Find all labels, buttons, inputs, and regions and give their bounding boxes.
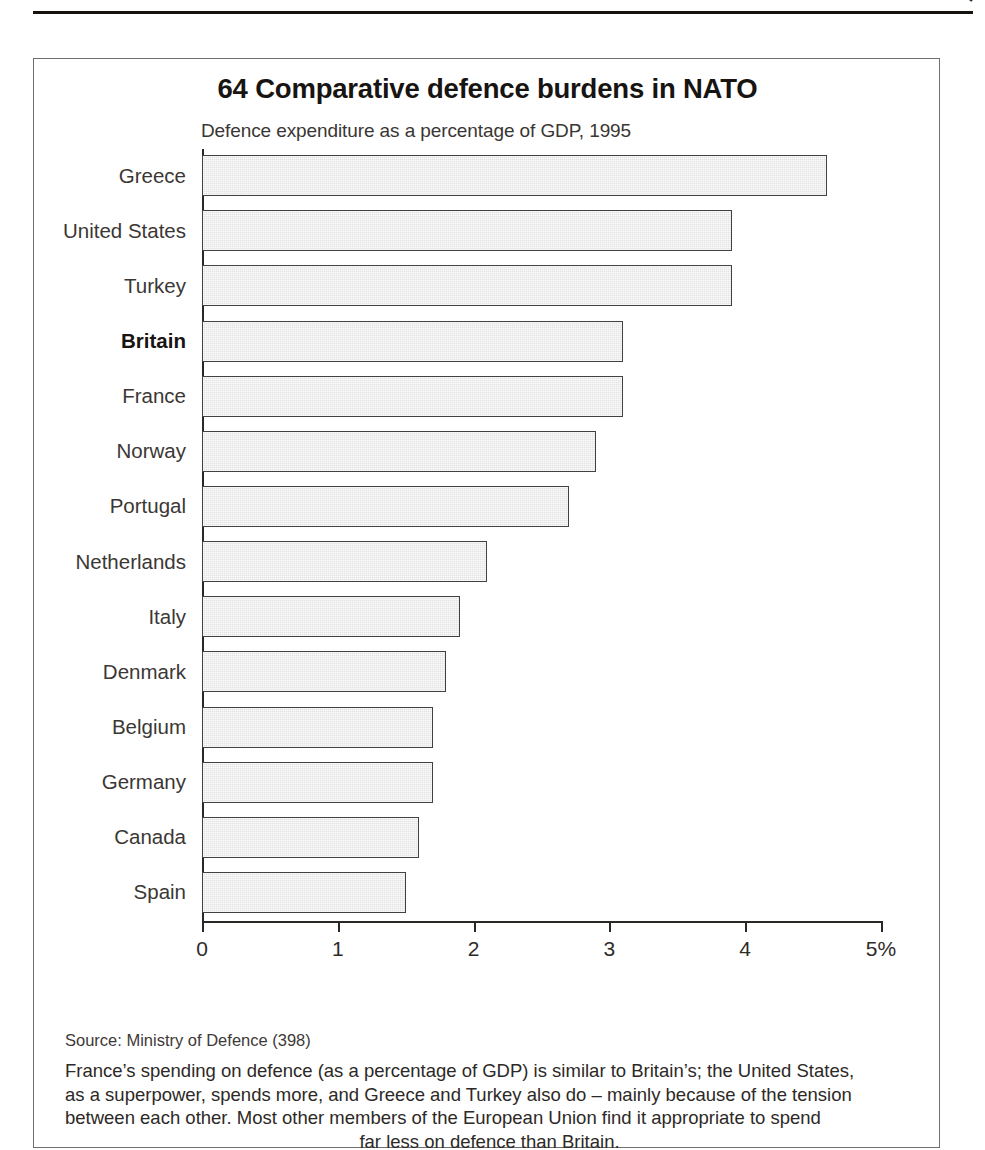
x-axis-tick: [881, 921, 883, 932]
x-axis-tick-label: 5%: [866, 937, 896, 961]
bar-row: Greece: [202, 155, 881, 196]
x-axis-tick: [745, 921, 747, 932]
bar-row: Canada: [202, 817, 881, 858]
bar: [202, 817, 419, 858]
bar-row: Germany: [202, 762, 881, 803]
bar-row: Turkey: [202, 265, 881, 306]
bar-row: France: [202, 376, 881, 417]
bar-row: United States: [202, 210, 881, 251]
bar-row: Portugal: [202, 486, 881, 527]
x-axis-tick-label: 4: [739, 937, 751, 961]
bar: [202, 596, 460, 637]
bar-category-label: Britain: [121, 329, 186, 353]
bar-category-label: Portugal: [110, 494, 186, 518]
figure-caption: France’s spending on defence (as a perce…: [65, 1059, 914, 1150]
bar: [202, 155, 827, 196]
page-top-rule: [33, 11, 973, 14]
bar-row: Denmark: [202, 651, 881, 692]
bar-category-label: France: [122, 384, 186, 408]
caption-line: between each other. Most other members o…: [65, 1106, 914, 1130]
bar: [202, 321, 623, 362]
bar-category-label: Turkey: [124, 274, 186, 298]
bar: [202, 210, 732, 251]
bar-category-label: Germany: [102, 770, 186, 794]
bar: [202, 486, 569, 527]
bar-chart: GreeceUnited StatesTurkeyBritainFranceNo…: [202, 149, 881, 921]
x-axis-tick: [474, 921, 476, 932]
x-axis-tick-label: 0: [196, 937, 208, 961]
x-axis-tick-label: 1: [332, 937, 344, 961]
x-axis-tick-label: 3: [604, 937, 616, 961]
bar: [202, 265, 732, 306]
chart-plot-area: GreeceUnited StatesTurkeyBritainFranceNo…: [34, 59, 941, 1149]
bar-row: Spain: [202, 872, 881, 913]
caption-line: France’s spending on defence (as a perce…: [65, 1059, 914, 1083]
bar: [202, 872, 406, 913]
x-axis-tick: [202, 921, 204, 932]
bar-category-label: Norway: [117, 439, 187, 463]
page-corner-mark: [965, 0, 983, 14]
bar-row: Netherlands: [202, 541, 881, 582]
figure-frame: 64 Comparative defence burdens in NATO D…: [33, 58, 940, 1148]
bar-category-label: Netherlands: [75, 550, 186, 574]
caption-line: far less on defence than Britain.: [65, 1130, 914, 1150]
bar: [202, 431, 596, 472]
bar-category-label: Canada: [114, 825, 186, 849]
source-note: Source: Ministry of Defence (398): [65, 1031, 311, 1050]
bar-row: Belgium: [202, 707, 881, 748]
bar: [202, 651, 446, 692]
bar-row: Norway: [202, 431, 881, 472]
bar-row: Britain: [202, 321, 881, 362]
caption-line: as a superpower, spends more, and Greece…: [65, 1083, 914, 1107]
x-axis-tick-label: 2: [468, 937, 480, 961]
x-axis-line: [202, 921, 881, 923]
bar: [202, 762, 433, 803]
bar: [202, 541, 487, 582]
bar-category-label: Denmark: [103, 660, 186, 684]
bar-category-label: Spain: [134, 880, 186, 904]
bar: [202, 707, 433, 748]
bar-row: Italy: [202, 596, 881, 637]
bar: [202, 376, 623, 417]
bar-category-label: Belgium: [112, 715, 186, 739]
x-axis-tick: [609, 921, 611, 932]
bar-category-label: Italy: [148, 605, 186, 629]
bar-category-label: Greece: [119, 164, 186, 188]
bar-category-label: United States: [63, 219, 186, 243]
x-axis-tick: [338, 921, 340, 932]
